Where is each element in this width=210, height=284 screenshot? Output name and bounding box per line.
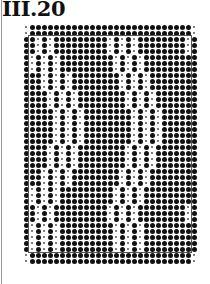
figure-title: III.20 <box>2 0 65 21</box>
small-dot <box>191 258 197 264</box>
inner-frame <box>28 35 192 253</box>
left-edge-line <box>1 0 2 284</box>
